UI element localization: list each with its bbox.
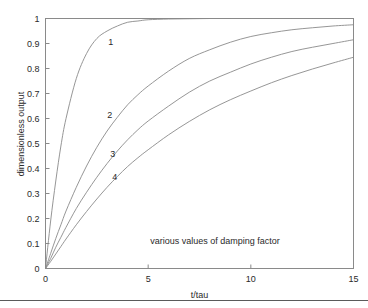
bottom-divider <box>0 300 368 301</box>
curve-label-4: 4 <box>112 172 117 182</box>
curve-2 <box>46 25 354 269</box>
y-tick-label: 0.4 <box>14 164 40 174</box>
chart-annotation: various values of damping factor <box>150 236 280 247</box>
curve-label-2: 2 <box>107 110 112 120</box>
y-tick-label: 0.3 <box>14 189 40 199</box>
curve-label-3: 3 <box>110 149 115 159</box>
x-axis-title: t/tau <box>140 290 260 301</box>
y-tick-label: 0.7 <box>14 89 40 99</box>
curve-1 <box>46 18 354 268</box>
y-tick-label: 0.6 <box>14 114 40 124</box>
curve-label-1: 1 <box>108 37 113 47</box>
data-curves <box>46 18 354 268</box>
y-tick-label: 0.1 <box>14 239 40 249</box>
y-tick-label: 0 <box>14 264 40 274</box>
x-tick-label: 0 <box>33 274 59 284</box>
curve-3 <box>46 40 354 269</box>
y-tick-label: 1 <box>14 14 40 24</box>
y-tick-label: 0.9 <box>14 39 40 49</box>
chart-plot-area <box>0 0 368 308</box>
x-tick-label: 5 <box>135 274 161 284</box>
figure-container: dimensionless output 00.10.20.30.40.50.6… <box>0 0 368 308</box>
x-tick-label: 15 <box>341 274 367 284</box>
axis-ticks <box>46 19 354 269</box>
y-tick-label: 0.5 <box>14 139 40 149</box>
y-tick-label: 0.8 <box>14 64 40 74</box>
axis-frame <box>46 19 354 269</box>
x-tick-label: 10 <box>238 274 264 284</box>
y-tick-label: 0.2 <box>14 214 40 224</box>
